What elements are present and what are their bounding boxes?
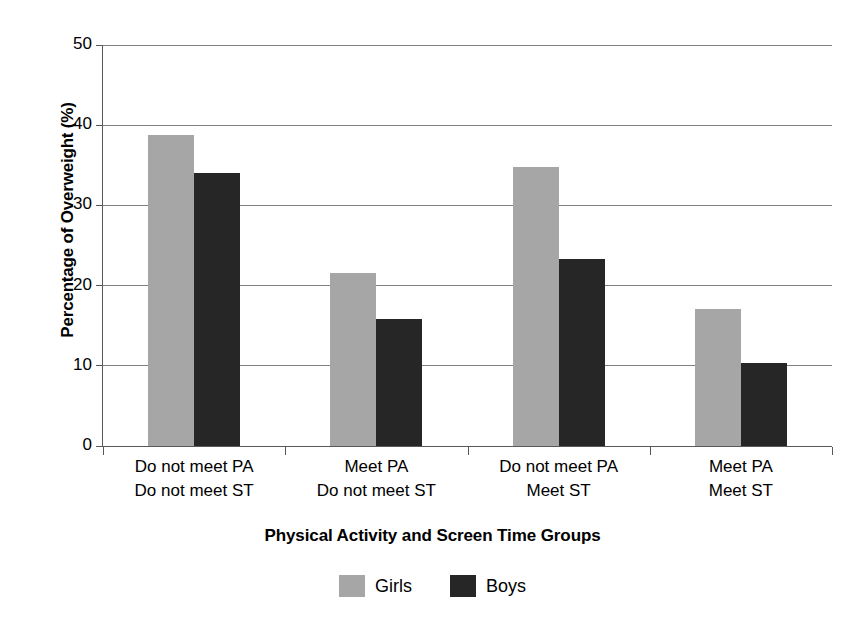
y-tick-label-20: 20 [40,275,92,295]
legend-entry-boys[interactable]: Boys [450,575,526,597]
x-category-label-3-line-1: Meet ST [650,479,832,503]
x-category-label-0-line-1: Do not meet ST [103,479,285,503]
x-category-label-2: Do not meet PAMeet ST [468,455,650,503]
legend-label-boys: Boys [486,576,526,597]
x-category-label-2-line-1: Meet ST [468,479,650,503]
y-tick-label-30: 30 [40,194,92,214]
y-tick-label-50: 50 [40,34,92,54]
x-category-label-1-line-0: Meet PA [344,457,408,476]
x-tick-mark-3 [650,447,651,455]
x-category-label-3: Meet PAMeet ST [650,455,832,503]
x-category-label-0-line-0: Do not meet PA [135,457,254,476]
x-category-label-2-line-0: Do not meet PA [499,457,618,476]
y-tick-label-40: 40 [40,114,92,134]
bar-boys-1 [376,319,422,446]
bar-girls-1 [330,273,376,446]
bar-boys-3 [741,363,787,446]
y-tick-label-10: 10 [40,355,92,375]
bar-chart-figure: Percentage of Overweight (%) 01020304050… [0,0,865,629]
legend-label-girls: Girls [375,576,412,597]
x-category-label-1: Meet PADo not meet ST [285,455,467,503]
bar-girls-0 [148,135,194,446]
y-tick-label-0: 0 [40,435,92,455]
gridline-50 [103,45,832,46]
x-tick-mark-4 [832,447,833,455]
gridline-40 [103,125,832,126]
bar-boys-0 [194,173,240,446]
x-tick-mark-0 [103,447,104,455]
bar-girls-2 [513,167,559,446]
chart-legend: GirlsBoys [0,575,865,597]
plot-area [103,45,832,446]
x-category-label-1-line-1: Do not meet ST [285,479,467,503]
legend-swatch-boys-icon [450,575,476,597]
x-axis-title: Physical Activity and Screen Time Groups [0,526,865,546]
bar-girls-3 [695,309,741,446]
legend-entry-girls[interactable]: Girls [339,575,412,597]
bar-boys-2 [559,259,605,446]
x-category-label-0: Do not meet PADo not meet ST [103,455,285,503]
legend-swatch-girls-icon [339,575,365,597]
x-category-label-3-line-0: Meet PA [709,457,773,476]
x-tick-mark-1 [285,447,286,455]
x-tick-mark-2 [468,447,469,455]
